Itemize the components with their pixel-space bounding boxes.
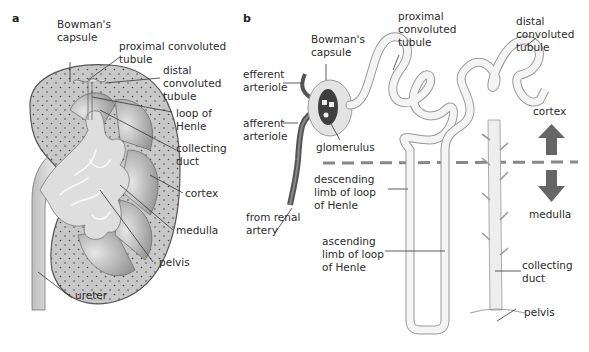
cortex-arrow-icon bbox=[538, 124, 565, 155]
collecting-duct bbox=[470, 120, 525, 313]
label-collecting-duct-b-2: duct bbox=[522, 272, 545, 284]
label-glomerulus: glomerulus bbox=[316, 141, 375, 153]
label-medulla-a: medulla bbox=[176, 224, 218, 236]
label-pelvis-a: pelvis bbox=[159, 256, 190, 268]
label-collecting-duct-a-2: duct bbox=[176, 155, 199, 167]
label-medulla-b: medulla bbox=[529, 208, 571, 220]
glomerulus bbox=[318, 89, 338, 125]
label-collecting-duct-a: collecting bbox=[176, 142, 227, 154]
label-descending-limb: descending bbox=[314, 173, 374, 185]
kidney-nephron-diagram: a bbox=[0, 0, 589, 352]
label-afferent-arteriole: afferent bbox=[243, 117, 284, 129]
label-dct-a-3: tubule bbox=[163, 90, 196, 102]
label-pelvis-b: pelvis bbox=[524, 306, 555, 318]
label-efferent-arteriole-2: arteriole bbox=[243, 81, 287, 93]
label-dct-b-3: tubule bbox=[516, 41, 549, 53]
label-dct-a: distal bbox=[163, 64, 192, 76]
label-loop-a: loop of bbox=[176, 107, 212, 119]
panel-b: b bbox=[243, 10, 578, 330]
label-descending-limb-2: limb of loop bbox=[314, 186, 376, 198]
panel-a-letter: a bbox=[12, 12, 19, 25]
label-bowmans-capsule-b: Bowman's bbox=[311, 33, 365, 45]
label-cortex-a: cortex bbox=[185, 187, 218, 199]
label-pct-a-2: tubule bbox=[119, 53, 152, 65]
label-cortex-b: cortex bbox=[533, 105, 566, 117]
label-dct-b: distal bbox=[516, 15, 545, 27]
medulla-arrow-icon bbox=[538, 170, 565, 202]
label-ascending-limb-3: of Henle bbox=[322, 261, 366, 273]
panel-a: a bbox=[12, 12, 227, 310]
label-pct-b-2: convoluted bbox=[398, 23, 456, 35]
label-bowmans-capsule-a-2: capsule bbox=[57, 31, 97, 43]
label-from-renal-artery-2: artery bbox=[246, 224, 278, 236]
label-descending-limb-3: of Henle bbox=[314, 199, 358, 211]
label-dct-a-2: convoluted bbox=[163, 77, 221, 89]
label-from-renal-artery: from renal bbox=[246, 211, 300, 223]
label-efferent-arteriole: efferent bbox=[243, 68, 284, 80]
label-ascending-limb-2: limb of loop bbox=[322, 248, 384, 260]
cortex-medulla-boundary bbox=[323, 162, 578, 163]
label-bowmans-capsule-a: Bowman's bbox=[57, 18, 111, 30]
label-dct-b-2: convoluted bbox=[516, 28, 574, 40]
label-ascending-limb: ascending bbox=[322, 235, 376, 247]
label-ureter-a: ureter bbox=[75, 289, 108, 301]
label-pct-b: proximal bbox=[398, 10, 444, 22]
label-pct-a: proximal convoluted bbox=[119, 40, 226, 52]
label-afferent-arteriole-2: arteriole bbox=[243, 130, 287, 142]
label-bowmans-capsule-b-2: capsule bbox=[311, 46, 351, 58]
label-pct-b-3: tubule bbox=[398, 36, 431, 48]
label-loop-a-2: Henle bbox=[176, 120, 206, 132]
label-collecting-duct-b: collecting bbox=[522, 259, 573, 271]
panel-b-letter: b bbox=[243, 12, 251, 25]
